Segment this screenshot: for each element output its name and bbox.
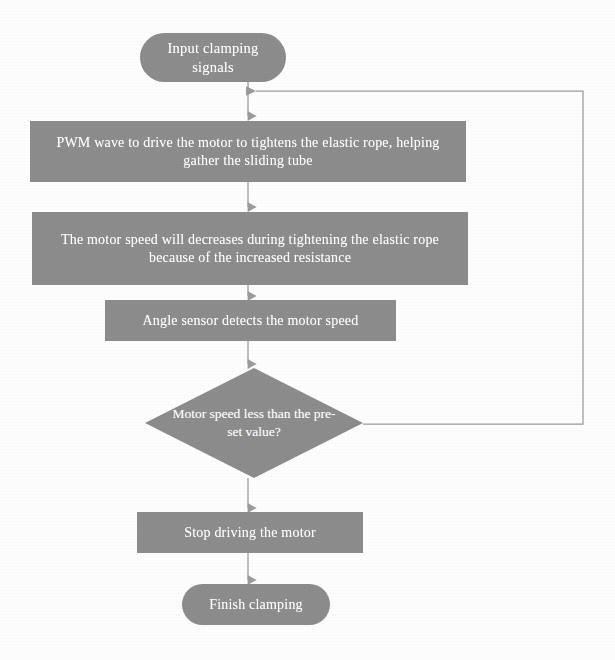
- node-angle-sensor-label: Angle sensor detects the motor speed: [105, 312, 396, 330]
- node-decision-speed-check-label: Motor speed less than the pre-set value?: [169, 405, 339, 440]
- node-decision-speed-check[interactable]: Motor speed less than the pre-set value?: [145, 368, 363, 478]
- node-finish-label: Finish clamping: [182, 596, 330, 614]
- flowchart-canvas: Input clamping signals PWM wave to drive…: [0, 0, 615, 660]
- node-start[interactable]: Input clamping signals: [140, 33, 286, 82]
- node-stop-motor-label: Stop driving the motor: [137, 524, 363, 542]
- node-pwm-drive-label: PWM wave to drive the motor to tightens …: [30, 134, 466, 170]
- node-motor-speed-decrease[interactable]: The motor speed will decreases during ti…: [32, 212, 468, 285]
- node-pwm-drive[interactable]: PWM wave to drive the motor to tightens …: [30, 121, 466, 182]
- node-start-label: Input clamping signals: [140, 39, 286, 76]
- node-motor-speed-decrease-label: The motor speed will decreases during ti…: [32, 231, 468, 267]
- node-stop-motor[interactable]: Stop driving the motor: [137, 512, 363, 553]
- node-finish[interactable]: Finish clamping: [182, 584, 330, 625]
- node-angle-sensor[interactable]: Angle sensor detects the motor speed: [105, 300, 396, 341]
